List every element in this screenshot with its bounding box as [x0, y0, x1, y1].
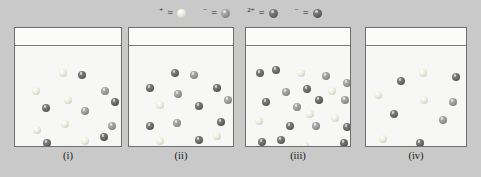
beaker-waterline [15, 45, 121, 46]
ion-sphere-ba2 [258, 138, 266, 146]
ion-sphere-ba2 [277, 136, 285, 144]
ion-sphere-ba2 [272, 66, 280, 74]
beaker-3 [245, 27, 351, 147]
ion-sphere-oh [315, 96, 323, 104]
legend-species-label: + [159, 8, 163, 19]
ion-sphere-ba2 [262, 98, 270, 106]
ion-sphere-cl [174, 90, 182, 98]
ion-sphere-ba2 [171, 69, 179, 77]
ion-sphere-ba2 [42, 104, 50, 112]
ion-sphere-cl [312, 122, 320, 130]
ion-sphere-ba2 [303, 85, 311, 93]
beaker-4 [365, 27, 467, 147]
beaker-waterline [366, 45, 466, 46]
ion-sphere-h [64, 96, 72, 104]
legend-entry-ba2: 2+= [247, 8, 278, 19]
ion-sphere-h [33, 126, 41, 134]
beaker-label-3: (iii) [245, 150, 351, 161]
ion-sphere-ba2 [286, 122, 294, 130]
ion-sphere-cl [449, 98, 457, 106]
ion-sphere-oh [213, 84, 221, 92]
legend-entry-cl: −= [203, 8, 230, 19]
beaker-label-1: (i) [14, 150, 122, 161]
ion-sphere-ba2 [195, 136, 203, 144]
ion-sphere-ba2 [43, 139, 51, 147]
legend-sphere-icon [221, 9, 230, 18]
ion-sphere-cl [282, 88, 290, 96]
beaker-row: (i)(ii)(iii)(iv) [0, 27, 481, 175]
legend-equals-sign: = [259, 8, 265, 19]
legend-sphere-icon [269, 9, 278, 18]
ion-sphere-ba2 [416, 139, 424, 147]
ion-sphere-h [297, 69, 305, 77]
beaker-label-2: (ii) [128, 150, 234, 161]
ion-sphere-h [59, 69, 67, 77]
beaker-2 [128, 27, 234, 147]
legend-charge-superscript: 2+ [247, 5, 255, 13]
ion-sphere-h [331, 114, 339, 122]
beaker-waterline [129, 45, 233, 46]
beaker-cell-2: (ii) [128, 27, 234, 147]
beaker-cell-4: (iv) [365, 27, 467, 147]
ion-sphere-ba2 [256, 69, 264, 77]
ion-sphere-h [328, 87, 336, 95]
legend-entry-oh: −= [295, 8, 322, 19]
ion-sphere-ba2 [390, 110, 398, 118]
legend-species-label: − [203, 8, 207, 19]
ion-sphere-ba2 [195, 102, 203, 110]
ion-sphere-cl [322, 72, 330, 80]
beaker-waterline [246, 45, 350, 46]
ion-sphere-h [306, 110, 314, 118]
legend-equals-sign: = [167, 8, 173, 19]
ion-sphere-cl [108, 122, 116, 130]
beaker-liquid [246, 46, 350, 146]
beaker-cell-1: (i) [14, 27, 122, 147]
ion-sphere-cl [439, 116, 447, 124]
ion-sphere-cl [173, 119, 181, 127]
ion-sphere-ba2 [146, 122, 154, 130]
ion-sphere-oh [100, 133, 108, 141]
legend-entry-h: += [159, 8, 186, 19]
ion-sphere-h [419, 69, 427, 77]
beaker-label-4: (iv) [365, 150, 467, 161]
ion-sphere-cl [190, 71, 198, 79]
ion-sphere-ba2 [78, 71, 86, 79]
ion-sphere-cl [343, 79, 351, 87]
ion-sphere-h [81, 137, 89, 145]
legend-charge-superscript: − [295, 5, 299, 13]
beaker-1 [14, 27, 122, 147]
ion-sphere-cl [224, 96, 232, 104]
legend-sphere-icon [313, 9, 322, 18]
ion-sphere-ba2 [146, 84, 154, 92]
ion-sphere-cl [341, 96, 349, 104]
legend-species-label: 2+ [247, 8, 255, 19]
beaker-cell-3: (iii) [245, 27, 351, 147]
legend-species-label: − [295, 8, 299, 19]
ion-sphere-oh [217, 118, 225, 126]
legend-charge-superscript: − [203, 5, 207, 13]
ion-sphere-h [213, 132, 221, 140]
ion-sphere-h [301, 142, 309, 147]
ion-sphere-cl [101, 87, 109, 95]
ion-sphere-h [156, 137, 164, 145]
ion-sphere-ba2 [452, 73, 460, 81]
ion-sphere-h [374, 91, 382, 99]
ion-sphere-h [255, 117, 263, 125]
ion-sphere-h [61, 120, 69, 128]
ion-sphere-oh [111, 98, 119, 106]
ion-sphere-oh [340, 139, 348, 147]
legend-equals-sign: = [211, 8, 217, 19]
ion-sphere-h [156, 101, 164, 109]
ion-sphere-h [379, 135, 387, 143]
legend-charge-superscript: + [159, 5, 163, 13]
legend-sphere-icon [177, 9, 186, 18]
legend: +=−=2+=−= [0, 4, 481, 22]
ion-sphere-cl [81, 107, 89, 115]
ion-sphere-h [32, 87, 40, 95]
legend-equals-sign: = [303, 8, 309, 19]
ion-sphere-ba2 [397, 77, 405, 85]
ion-sphere-cl [293, 103, 301, 111]
ion-sphere-h [420, 96, 428, 104]
ion-sphere-ba2 [343, 123, 351, 131]
